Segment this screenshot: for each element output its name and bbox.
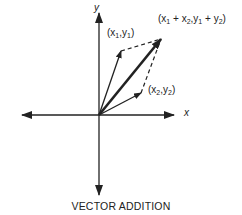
- vector-sum: [99, 39, 161, 115]
- x-axis-label: x: [184, 107, 189, 118]
- vector-1-label: (x1,y1): [107, 27, 134, 39]
- y-axis-label: y: [94, 2, 99, 13]
- vector-sum-label: (x1 + x2,y1 + y2): [158, 13, 226, 25]
- diagram-caption: VECTOR ADDITION: [0, 200, 242, 212]
- vector-2-label: (x2,y2): [148, 84, 175, 96]
